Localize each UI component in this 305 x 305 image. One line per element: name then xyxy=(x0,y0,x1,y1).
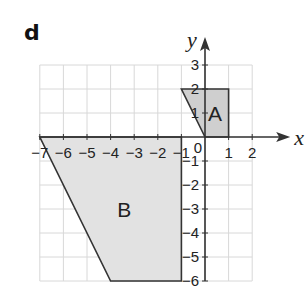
x-tick-label: 2 xyxy=(248,144,256,161)
y-tick-label: −5 xyxy=(182,248,199,265)
x-tick-label: −5 xyxy=(78,144,95,161)
y-tick-label: 1 xyxy=(191,104,199,121)
x-tick-label: −4 xyxy=(102,144,119,161)
x-tick-label: 1 xyxy=(224,144,232,161)
coordinate-grid: AB −7−6−5−4−3−2−112321−1−2−3−4−5−60xy xyxy=(0,0,305,305)
shape-label-a: A xyxy=(208,102,222,125)
x-tick-label: −3 xyxy=(126,144,143,161)
y-tick-label: 2 xyxy=(191,80,199,97)
y-tick-label: −2 xyxy=(182,176,199,193)
origin-label: 0 xyxy=(194,139,202,156)
y-tick-label: −3 xyxy=(182,200,199,217)
x-tick-label: −2 xyxy=(149,144,166,161)
y-tick-label: −6 xyxy=(182,272,199,289)
shape-label-b: B xyxy=(117,198,131,221)
y-tick-label: 3 xyxy=(191,56,199,73)
x-tick-label: −6 xyxy=(55,144,72,161)
y-axis-name: y xyxy=(185,27,197,52)
x-axis-name: x xyxy=(293,125,304,150)
x-tick-label: −7 xyxy=(31,144,48,161)
y-tick-label: −4 xyxy=(182,224,199,241)
